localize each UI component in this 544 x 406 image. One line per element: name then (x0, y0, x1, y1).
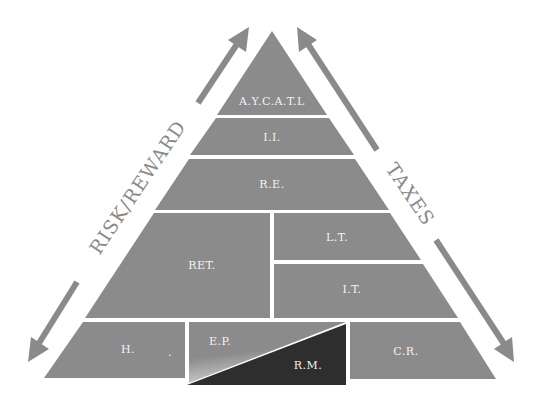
block-it (274, 264, 458, 318)
label-aycatl: A.Y.C.A.T.L (238, 95, 305, 108)
label-it: I.T. (342, 283, 361, 296)
label-h-dot: . (168, 346, 172, 359)
label-cr: C.R. (393, 345, 418, 358)
pyramid-diagram: RISK/REWARD TAXES A.Y.C.A.T.L I.I. R.E. … (0, 0, 544, 406)
label-re: R.E. (259, 178, 284, 191)
label-ret: RET. (188, 259, 216, 272)
label-rm: R.M. (294, 359, 323, 372)
label-ii: I.I. (263, 131, 281, 144)
label-ep: E.P. (209, 335, 231, 348)
label-lt: L.T. (326, 231, 348, 244)
block-h (44, 322, 185, 378)
label-h: H. (121, 343, 135, 356)
block-cr (350, 322, 496, 379)
